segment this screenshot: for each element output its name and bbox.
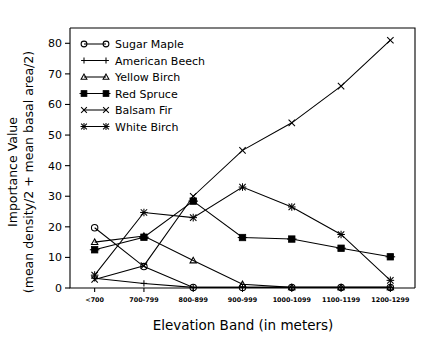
legend-marker bbox=[102, 91, 111, 97]
y-axis-title-line2: (mean density/2 + mean basal area/2) bbox=[21, 51, 36, 293]
legend-marker bbox=[80, 91, 89, 97]
data-point bbox=[387, 37, 393, 43]
data-point bbox=[141, 280, 147, 286]
data-point bbox=[386, 254, 396, 260]
legend-label: Yellow Birch bbox=[114, 71, 180, 84]
data-point bbox=[287, 236, 297, 242]
data-point bbox=[387, 277, 395, 285]
legend-marker bbox=[81, 58, 87, 64]
data-point bbox=[139, 234, 149, 240]
data-point bbox=[91, 271, 99, 279]
legend-item-sugar-maple: Sugar Maple bbox=[81, 38, 184, 51]
y-tick-label: 30 bbox=[48, 190, 62, 203]
legend-label: Sugar Maple bbox=[115, 38, 184, 51]
legend-item-balsam-fir: Balsam Fir bbox=[81, 104, 173, 117]
chart-legend: Sugar MapleAmerican BeechYellow BirchRed… bbox=[80, 38, 205, 134]
legend-item-red-spruce: Red Spruce bbox=[80, 88, 178, 101]
line-chart: Importance Value (mean density/2 + mean … bbox=[0, 0, 429, 342]
data-point bbox=[238, 234, 248, 240]
legend-item-yellow-birch: Yellow Birch bbox=[81, 71, 180, 84]
series-red-spruce bbox=[90, 198, 395, 260]
x-tick-label: 1200-1299 bbox=[371, 296, 410, 304]
legend-item-white-birch: White Birch bbox=[81, 121, 179, 134]
y-axis-ticks: 01020304050607080 bbox=[48, 37, 70, 295]
y-tick-label: 0 bbox=[55, 282, 62, 295]
data-point bbox=[288, 203, 296, 211]
x-axis-ticks: <700700-799800-899900-9991000-10991100-1… bbox=[85, 288, 410, 304]
series-line bbox=[95, 201, 391, 257]
x-tick-label: 900-999 bbox=[228, 296, 258, 304]
legend-label: Red Spruce bbox=[115, 88, 178, 101]
series-line bbox=[95, 187, 391, 280]
x-tick-label: 1100-1199 bbox=[322, 296, 361, 304]
data-point bbox=[189, 214, 197, 222]
legend-label: American Beech bbox=[115, 55, 205, 68]
x-tick-label: 1000-1099 bbox=[273, 296, 312, 304]
y-tick-label: 60 bbox=[48, 98, 62, 111]
y-tick-label: 20 bbox=[48, 221, 62, 234]
data-point bbox=[90, 247, 100, 253]
legend-label: Balsam Fir bbox=[115, 104, 173, 117]
x-tick-label: <700 bbox=[85, 296, 104, 304]
data-point bbox=[289, 120, 295, 126]
data-point bbox=[338, 83, 344, 89]
legend-label: White Birch bbox=[115, 121, 178, 134]
legend-marker bbox=[81, 123, 88, 130]
series-line bbox=[95, 236, 391, 287]
chart-figure: Importance Value (mean density/2 + mean … bbox=[0, 0, 429, 342]
data-point bbox=[336, 245, 346, 251]
y-axis-title: Importance Value (mean density/2 + mean … bbox=[5, 51, 36, 293]
x-tick-label: 800-899 bbox=[179, 296, 209, 304]
y-tick-label: 50 bbox=[48, 129, 62, 142]
y-tick-label: 70 bbox=[48, 68, 62, 81]
legend-marker bbox=[103, 123, 110, 130]
data-point bbox=[140, 209, 148, 217]
y-tick-label: 40 bbox=[48, 160, 62, 173]
y-axis-title-line1: Importance Value bbox=[5, 117, 20, 227]
data-point bbox=[239, 183, 247, 191]
y-tick-label: 10 bbox=[48, 251, 62, 264]
x-tick-label: 700-799 bbox=[129, 296, 159, 304]
y-tick-label: 80 bbox=[48, 37, 62, 50]
series-white-birch bbox=[91, 183, 394, 284]
x-axis-title: Elevation Band (in meters) bbox=[153, 317, 334, 333]
legend-marker bbox=[103, 58, 109, 64]
data-point bbox=[337, 231, 345, 239]
legend-item-american-beech: American Beech bbox=[81, 55, 205, 68]
data-point bbox=[239, 147, 245, 153]
